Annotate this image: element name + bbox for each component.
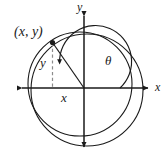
point-marker — [50, 40, 55, 45]
theta-angle-label: θ — [105, 54, 111, 67]
inner-circle — [28, 32, 132, 136]
horizontal-leg-label: x — [61, 91, 67, 104]
x-axis-label: x — [155, 81, 160, 93]
y-axis-label: y — [77, 1, 82, 13]
radius-segment — [53, 43, 85, 89]
point-coordinates-label: (x, y) — [14, 25, 43, 39]
outer-circle — [31, 34, 143, 146]
vertical-leg-label: y — [40, 56, 46, 69]
math-figure: (x, y) x y x y θ — [0, 0, 166, 161]
